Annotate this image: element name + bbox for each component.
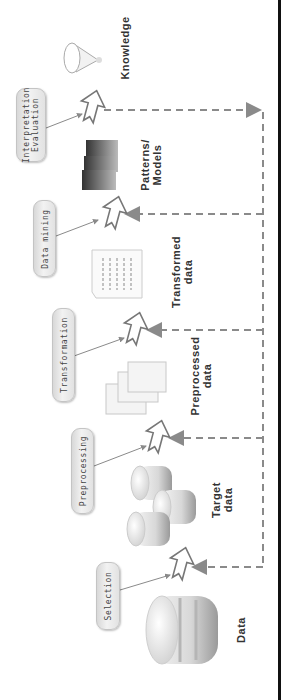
artifact-label-knowledge: Knowledge <box>119 16 131 79</box>
artifact-label-patterns-models: Patterns/ Models <box>139 139 163 191</box>
artifact-label-target-data: Target data <box>210 482 234 518</box>
artifact-label-transformed-data: Transformed data <box>170 236 194 308</box>
database-stack-icon <box>127 466 196 546</box>
artifact-label-data: Data <box>235 617 247 643</box>
table-document-icon <box>92 250 142 298</box>
artifact-icons <box>0 0 289 700</box>
document-stack-icon <box>106 362 166 414</box>
artifact-label-preprocessed-data: Preprocessed data <box>189 337 213 416</box>
cone-icon <box>64 43 102 73</box>
bar-blocks-icon <box>82 140 118 190</box>
database-icon <box>146 596 218 664</box>
